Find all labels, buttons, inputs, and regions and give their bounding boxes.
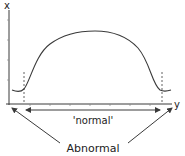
normal-range-label: 'normal' <box>73 115 114 126</box>
abnormal-label: Abnormal <box>66 142 119 155</box>
horizontal-axis-label: y <box>174 99 180 110</box>
vertical-axis-label: x <box>4 0 10 11</box>
axis-ticks <box>7 20 150 106</box>
normal-range-diagram: x y 'normal' Abnormal <box>0 0 185 156</box>
abnormal-arrow-left <box>12 108 60 143</box>
distribution-curve <box>12 31 171 91</box>
abnormal-arrow-right <box>128 108 172 143</box>
